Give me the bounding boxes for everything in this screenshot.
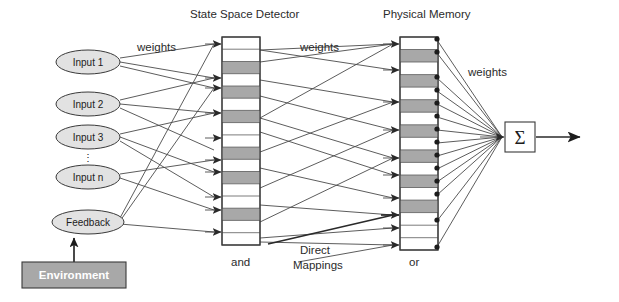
summation-group: Σ [505,122,580,152]
direct-mappings-label-line1: Direct [300,244,331,256]
weights-label-right: weights [467,66,507,78]
state-space-detector-title: State Space Detector [190,8,299,20]
input-node-1-label: Input 1 [73,57,104,68]
feedback-node-label: Feedback [66,217,111,228]
memory-input-arrowheads [381,44,399,245]
detector-to-memory-wires [260,44,393,262]
input-node-2[interactable]: Input 2 [56,92,120,116]
environment-label: Environment [39,269,109,281]
physical-memory-column[interactable] [400,36,440,250]
or-label: or [409,256,419,268]
direct-mappings-label-line2: Mappings [293,259,343,271]
input-nodes-group: Input 1 Input 2 Input 3 ⋮ Input n Feedba… [52,50,124,234]
physical-memory-title: Physical Memory [383,8,471,20]
input-node-1[interactable]: Input 1 [56,50,120,74]
weights-label-left: weights [136,41,176,53]
weights-label-mid: weights [299,41,339,53]
and-label: and [231,256,250,268]
input-node-n[interactable]: Input n [56,165,120,189]
input-node-n-label: Input n [73,172,104,183]
environment-group: Environment [22,238,126,288]
input-node-3[interactable]: Input 3 [56,125,120,149]
architecture-diagram: Input 1 Input 2 Input 3 ⋮ Input n Feedba… [0,0,619,302]
summation-symbol: Σ [514,127,525,148]
input-to-detector-wires [120,44,214,232]
state-space-detector-column[interactable] [222,37,260,245]
input-node-2-label: Input 2 [73,99,104,110]
ellipsis-label: ⋮ [83,152,93,163]
input-node-3-label: Input 3 [73,132,104,143]
diagram-canvas: Input 1 Input 2 Input 3 ⋮ Input n Feedba… [0,0,619,302]
feedback-node[interactable]: Feedback [52,210,124,234]
detector-input-arrowheads [205,44,221,232]
